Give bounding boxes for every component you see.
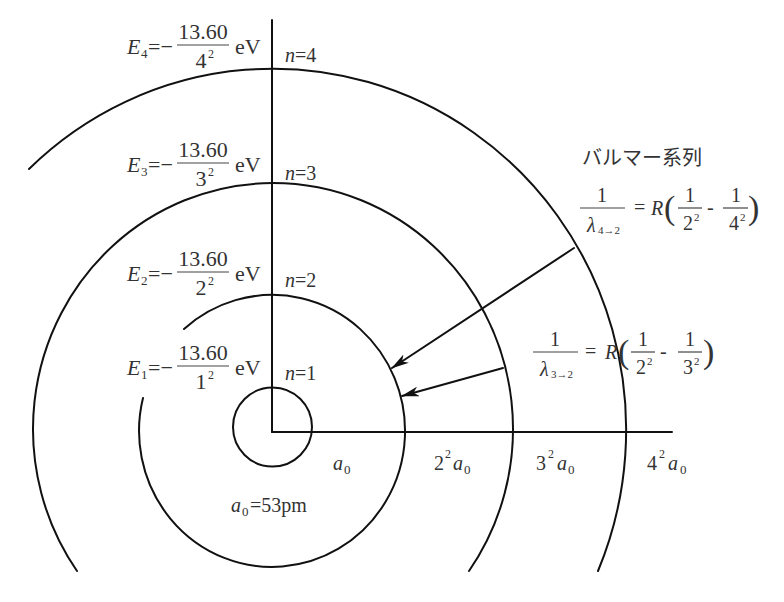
term1-numerator: 1 <box>685 184 695 206</box>
quantum-number-label: n=4 <box>285 44 316 66</box>
energy-denominator: 2 <box>196 275 207 300</box>
orbit-radius-label-n4: 4 2 a 0 <box>647 447 687 477</box>
radius-subscript: 0 <box>568 462 575 477</box>
radius-symbol: a <box>668 452 678 474</box>
energy-symbol: E <box>126 355 141 380</box>
transition-subscript: 3→2 <box>551 368 573 380</box>
term1-exponent: 2 <box>647 355 653 367</box>
close-paren: ) <box>703 333 714 371</box>
radius-subscript: 0 <box>680 462 687 477</box>
balmer-formula-3-to-2: 1 λ 3→2 = R ( 1 2 2 - 1 3 2 ) <box>533 328 714 380</box>
radius-symbol: a <box>333 452 343 474</box>
energy-unit: eV <box>235 34 261 59</box>
radius-symbol: a <box>557 452 567 474</box>
balmer-formula-4-to-2: 1 λ 4→2 = R ( 1 2 2 - 1 4 2 ) <box>580 184 759 236</box>
term2-base: 3 <box>683 356 693 378</box>
wavelength-symbol: λ <box>586 214 596 236</box>
energy-unit: eV <box>235 261 261 286</box>
energy-denominator: 1 <box>196 369 207 394</box>
formula-equals: = <box>585 340 596 362</box>
arrow-transition-4-to-2 <box>392 248 574 368</box>
bohr-radius-label: a 0 =53pm <box>231 494 307 519</box>
open-paren: ( <box>664 189 675 227</box>
energy-level-label-n2: E 2 =− 13.60 2 2 eV n=2 <box>126 246 316 300</box>
formula-numerator: 1 <box>597 184 607 206</box>
term2-base: 4 <box>729 212 739 234</box>
radius-subscript: 0 <box>464 462 471 477</box>
energy-numerator: 13.60 <box>178 246 228 271</box>
energy-unit: eV <box>235 152 261 177</box>
energy-denominator: 3 <box>196 166 207 191</box>
bohr-model-diagram: E 4 =− 13.60 4 2 eV n=4 E 3 =− 13.60 3 2… <box>0 0 784 602</box>
term1-base: 2 <box>683 212 693 234</box>
energy-denominator: 4 <box>196 48 207 73</box>
orbit-n4 <box>29 69 626 571</box>
radius-coefficient: 2 <box>434 452 444 474</box>
orbit-radius-label-n3: 3 2 a 0 <box>536 447 575 477</box>
radius-subscript: 0 <box>344 462 351 477</box>
close-paren: ) <box>748 189 759 227</box>
formula-minus: - <box>660 340 667 362</box>
equals-minus: =− <box>148 152 173 177</box>
energy-subscript: 2 <box>141 273 148 288</box>
energy-numerator: 13.60 <box>178 19 228 44</box>
open-paren: ( <box>618 333 629 371</box>
quantum-number-label: n=1 <box>285 362 316 384</box>
quantum-number-label: n=3 <box>285 162 316 184</box>
energy-level-label-n3: E 3 =− 13.60 3 2 eV n=3 <box>126 137 316 191</box>
energy-subscript: 4 <box>141 46 148 61</box>
energy-symbol: E <box>126 261 141 286</box>
radius-exponent: 2 <box>548 447 554 461</box>
bohr-radius-value: =53pm <box>250 494 307 517</box>
energy-subscript: 1 <box>141 367 148 382</box>
rydberg-constant: R <box>650 197 663 219</box>
radius-coefficient: 4 <box>647 452 657 474</box>
balmer-series-title: バルマー系列 <box>582 146 702 170</box>
term2-numerator: 1 <box>685 328 695 350</box>
energy-numerator: 13.60 <box>178 137 228 162</box>
quantum-number-label: n=2 <box>285 269 316 291</box>
orbit-radius-label-n1: a 0 <box>333 452 351 477</box>
denominator-exponent: 2 <box>208 165 214 179</box>
term1-numerator: 1 <box>638 328 648 350</box>
denominator-exponent: 2 <box>208 47 214 61</box>
energy-symbol: E <box>126 152 141 177</box>
term2-exponent: 2 <box>694 355 700 367</box>
radius-exponent: 2 <box>659 447 665 461</box>
term2-numerator: 1 <box>731 184 741 206</box>
term1-exponent: 2 <box>694 211 700 223</box>
equals-minus: =− <box>148 261 173 286</box>
energy-subscript: 3 <box>141 164 148 179</box>
equals-minus: =− <box>148 355 173 380</box>
term1-base: 2 <box>636 356 646 378</box>
energy-level-label-n4: E 4 =− 13.60 4 2 eV n=4 <box>126 19 316 73</box>
formula-numerator: 1 <box>550 328 560 350</box>
bohr-radius-subscript: 0 <box>242 504 249 519</box>
orbit-radius-label-n2: 2 2 a 0 <box>434 447 471 477</box>
energy-numerator: 13.60 <box>178 340 228 365</box>
formula-minus: - <box>707 196 714 218</box>
energy-unit: eV <box>235 355 261 380</box>
equals-minus: =− <box>148 34 173 59</box>
energy-symbol: E <box>126 34 141 59</box>
denominator-exponent: 2 <box>208 274 214 288</box>
arrow-transition-3-to-2 <box>402 368 503 396</box>
formula-equals: = <box>634 196 645 218</box>
wavelength-symbol: λ <box>539 358 549 380</box>
radius-coefficient: 3 <box>536 452 546 474</box>
energy-level-label-n1: E 1 =− 13.60 1 2 eV n=1 <box>126 340 316 394</box>
radius-exponent: 2 <box>445 447 451 461</box>
term2-exponent: 2 <box>740 211 746 223</box>
bohr-radius-symbol: a <box>231 494 241 516</box>
rydberg-constant: R <box>604 341 617 363</box>
radius-symbol: a <box>453 452 463 474</box>
transition-subscript: 4→2 <box>598 224 620 236</box>
denominator-exponent: 2 <box>208 368 214 382</box>
